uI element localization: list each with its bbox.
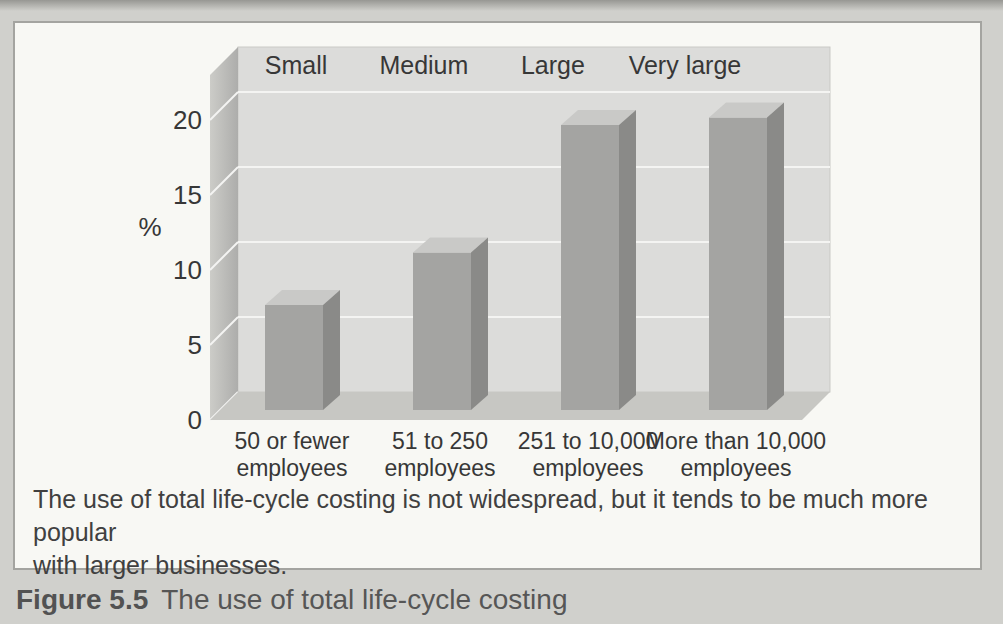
y-tick-label-5: 5 (188, 330, 202, 360)
x-category-label-3-line1: More than 10,000 (646, 428, 826, 454)
x-category-label-1: 51 to 250employees (384, 428, 495, 481)
x-category-label-1-line1: 51 to 250 (392, 428, 488, 454)
bar-2-side (619, 110, 636, 410)
figure-note: The use of total life-cycle costing is n… (33, 483, 973, 582)
y-tick-label-15: 15 (173, 180, 202, 210)
bar-1-side (471, 238, 488, 411)
x-category-label-0-line1: 50 or fewer (234, 428, 349, 454)
y-axis-unit-label: % (138, 212, 161, 242)
group-label-0: Small (265, 51, 328, 79)
x-category-label-2: 251 to 10,000employees (518, 428, 659, 481)
figure-caption-label: Figure 5.5 (16, 584, 148, 615)
chart-left-wall (210, 47, 238, 420)
figure-note-line1: The use of total life-cycle costing is n… (33, 485, 928, 546)
x-category-label-0-line2: employees (236, 455, 347, 481)
figure-caption-title: The use of total life-cycle costing (161, 584, 567, 615)
bar-0-side (323, 290, 340, 410)
bar-3-side (767, 103, 784, 411)
bar-2-front (561, 125, 619, 410)
bar-0-front (265, 305, 323, 410)
x-category-label-3: More than 10,000employees (646, 428, 826, 481)
y-tick-label-0: 0 (188, 405, 202, 435)
group-label-2: Large (521, 51, 585, 79)
bar-3-front (709, 118, 767, 411)
figure-caption: Figure 5.5The use of total life-cycle co… (16, 584, 996, 616)
x-category-label-2-line1: 251 to 10,000 (518, 428, 659, 454)
bar-1-front (413, 253, 471, 411)
scanned-page: { "panel": { "caption_lines": [ "The use… (0, 0, 1003, 624)
x-category-label-1-line2: employees (384, 455, 495, 481)
x-category-label-0: 50 or feweremployees (234, 428, 349, 481)
group-label-3: Very large (629, 51, 742, 79)
group-label-1: Medium (379, 51, 468, 79)
x-category-label-3-line2: employees (680, 455, 791, 481)
y-tick-label-10: 10 (173, 255, 202, 285)
x-category-label-2-line2: employees (532, 455, 643, 481)
figure-note-line2: with larger businesses. (33, 551, 287, 579)
y-tick-label-20: 20 (173, 105, 202, 135)
